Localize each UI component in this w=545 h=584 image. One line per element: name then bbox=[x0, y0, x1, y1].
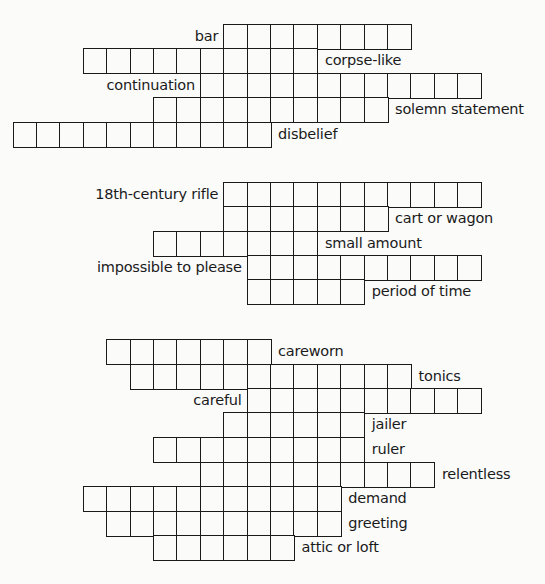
letter-cell[interactable] bbox=[106, 486, 131, 512]
letter-cell[interactable] bbox=[293, 206, 318, 232]
letter-cell[interactable] bbox=[340, 462, 365, 488]
letter-cell[interactable] bbox=[293, 279, 318, 305]
letter-cell[interactable] bbox=[270, 24, 295, 50]
letter-cell[interactable] bbox=[176, 231, 201, 257]
letter-cell[interactable] bbox=[293, 364, 318, 390]
letter-cell[interactable] bbox=[457, 388, 482, 414]
letter-cell[interactable] bbox=[317, 388, 342, 414]
letter-cell[interactable] bbox=[176, 486, 201, 512]
letter-cell[interactable] bbox=[176, 511, 201, 537]
letter-cell[interactable] bbox=[270, 364, 295, 390]
letter-cell[interactable] bbox=[340, 97, 365, 123]
letter-cell[interactable] bbox=[317, 279, 342, 305]
letter-cell[interactable] bbox=[223, 437, 248, 463]
letter-cell[interactable] bbox=[270, 437, 295, 463]
letter-cell[interactable] bbox=[153, 48, 178, 74]
letter-cell[interactable] bbox=[247, 511, 272, 537]
letter-cell[interactable] bbox=[13, 122, 38, 148]
letter-cell[interactable] bbox=[270, 535, 295, 561]
letter-cell[interactable] bbox=[340, 388, 365, 414]
letter-cell[interactable] bbox=[247, 364, 272, 390]
letter-cell[interactable] bbox=[130, 48, 155, 74]
letter-cell[interactable] bbox=[270, 206, 295, 232]
letter-cell[interactable] bbox=[340, 255, 365, 281]
letter-cell[interactable] bbox=[410, 182, 435, 208]
letter-cell[interactable] bbox=[434, 255, 459, 281]
letter-cell[interactable] bbox=[247, 462, 272, 488]
letter-cell[interactable] bbox=[434, 388, 459, 414]
letter-cell[interactable] bbox=[270, 388, 295, 414]
letter-cell[interactable] bbox=[387, 364, 412, 390]
letter-cell[interactable] bbox=[247, 48, 272, 74]
letter-cell[interactable] bbox=[364, 206, 389, 232]
letter-cell[interactable] bbox=[387, 388, 412, 414]
letter-cell[interactable] bbox=[293, 511, 318, 537]
letter-cell[interactable] bbox=[457, 182, 482, 208]
letter-cell[interactable] bbox=[364, 24, 389, 50]
letter-cell[interactable] bbox=[223, 511, 248, 537]
letter-cell[interactable] bbox=[317, 97, 342, 123]
letter-cell[interactable] bbox=[293, 24, 318, 50]
letter-cell[interactable] bbox=[153, 437, 178, 463]
letter-cell[interactable] bbox=[247, 24, 272, 50]
letter-cell[interactable] bbox=[247, 122, 272, 148]
letter-cell[interactable] bbox=[410, 388, 435, 414]
letter-cell[interactable] bbox=[200, 486, 225, 512]
letter-cell[interactable] bbox=[247, 255, 272, 281]
letter-cell[interactable] bbox=[130, 122, 155, 148]
letter-cell[interactable] bbox=[410, 255, 435, 281]
letter-cell[interactable] bbox=[130, 511, 155, 537]
letter-cell[interactable] bbox=[293, 437, 318, 463]
letter-cell[interactable] bbox=[387, 182, 412, 208]
letter-cell[interactable] bbox=[176, 97, 201, 123]
letter-cell[interactable] bbox=[364, 73, 389, 99]
letter-cell[interactable] bbox=[270, 486, 295, 512]
letter-cell[interactable] bbox=[340, 73, 365, 99]
letter-cell[interactable] bbox=[83, 122, 108, 148]
letter-cell[interactable] bbox=[317, 437, 342, 463]
letter-cell[interactable] bbox=[247, 182, 272, 208]
letter-cell[interactable] bbox=[130, 339, 155, 365]
letter-cell[interactable] bbox=[457, 255, 482, 281]
letter-cell[interactable] bbox=[130, 486, 155, 512]
letter-cell[interactable] bbox=[317, 486, 342, 512]
letter-cell[interactable] bbox=[293, 231, 318, 257]
letter-cell[interactable] bbox=[270, 462, 295, 488]
letter-cell[interactable] bbox=[270, 279, 295, 305]
letter-cell[interactable] bbox=[317, 73, 342, 99]
letter-cell[interactable] bbox=[247, 231, 272, 257]
letter-cell[interactable] bbox=[247, 486, 272, 512]
letter-cell[interactable] bbox=[176, 339, 201, 365]
letter-cell[interactable] bbox=[364, 182, 389, 208]
letter-cell[interactable] bbox=[270, 97, 295, 123]
letter-cell[interactable] bbox=[223, 73, 248, 99]
letter-cell[interactable] bbox=[200, 122, 225, 148]
letter-cell[interactable] bbox=[200, 535, 225, 561]
letter-cell[interactable] bbox=[317, 206, 342, 232]
letter-cell[interactable] bbox=[83, 486, 108, 512]
letter-cell[interactable] bbox=[340, 437, 365, 463]
letter-cell[interactable] bbox=[59, 122, 84, 148]
letter-cell[interactable] bbox=[317, 182, 342, 208]
letter-cell[interactable] bbox=[387, 24, 412, 50]
letter-cell[interactable] bbox=[387, 73, 412, 99]
letter-cell[interactable] bbox=[387, 462, 412, 488]
letter-cell[interactable] bbox=[317, 364, 342, 390]
letter-cell[interactable] bbox=[293, 255, 318, 281]
letter-cell[interactable] bbox=[153, 97, 178, 123]
letter-cell[interactable] bbox=[340, 206, 365, 232]
letter-cell[interactable] bbox=[200, 437, 225, 463]
letter-cell[interactable] bbox=[200, 48, 225, 74]
letter-cell[interactable] bbox=[293, 97, 318, 123]
letter-cell[interactable] bbox=[223, 122, 248, 148]
letter-cell[interactable] bbox=[317, 24, 342, 50]
letter-cell[interactable] bbox=[364, 97, 389, 123]
letter-cell[interactable] bbox=[340, 182, 365, 208]
letter-cell[interactable] bbox=[293, 486, 318, 512]
letter-cell[interactable] bbox=[410, 462, 435, 488]
letter-cell[interactable] bbox=[457, 73, 482, 99]
letter-cell[interactable] bbox=[270, 231, 295, 257]
letter-cell[interactable] bbox=[200, 231, 225, 257]
letter-cell[interactable] bbox=[247, 412, 272, 438]
letter-cell[interactable] bbox=[434, 73, 459, 99]
